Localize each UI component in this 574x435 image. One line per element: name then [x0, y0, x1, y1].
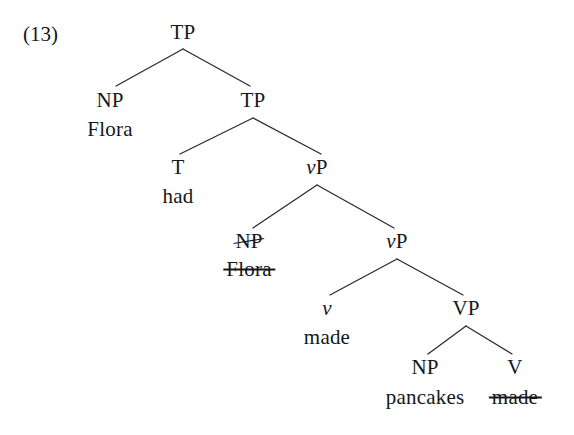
- branch-tp-lower-to-t: [180, 118, 253, 154]
- tree-node-label: vP: [386, 229, 407, 253]
- tree-node-tp-root: TP: [171, 22, 196, 43]
- tree-node-label: Flora: [226, 257, 271, 281]
- tree-node-pancakes: pancakes: [386, 387, 465, 408]
- tree-node-label: NP: [96, 88, 123, 112]
- tree-node-label: v: [322, 296, 332, 320]
- branch-vp-phrase-to-np: [428, 326, 466, 354]
- strikethrough-line: [489, 397, 542, 398]
- tree-branches: [0, 0, 574, 435]
- tree-node-t-head: T: [171, 157, 184, 178]
- tree-node-label: pancakes: [386, 385, 465, 409]
- tree-node-flora-trace: Flora: [226, 259, 271, 280]
- italic-head-letter: v: [322, 296, 332, 320]
- tree-node-vp-phrase: VP: [452, 298, 479, 319]
- tree-node-label: TP: [171, 20, 196, 44]
- tree-node-label: NP: [411, 355, 438, 379]
- syntax-tree-figure: (13) TPNPFloraTPThadvPNPFloravPvmadeVPNP…: [0, 0, 574, 435]
- tree-node-flora-top: Flora: [87, 119, 132, 140]
- tree-node-vp-lower: vP: [386, 231, 407, 252]
- tree-node-label: made: [492, 385, 538, 409]
- tree-node-np-trace: NP: [235, 231, 262, 252]
- tree-node-label: made: [304, 325, 350, 349]
- tree-node-label: vP: [306, 155, 327, 179]
- branch-vp-lower-to-vp-phrase: [397, 259, 463, 295]
- tree-node-tp-lower: TP: [241, 90, 266, 111]
- tree-node-v-head: v: [322, 298, 332, 319]
- tree-node-label: V: [507, 355, 522, 379]
- branch-vp-upper-to-vp-lower: [317, 185, 394, 228]
- strikethrough-line: [234, 238, 265, 244]
- tree-node-vp-upper: vP: [306, 157, 327, 178]
- strikethrough-line: [223, 269, 275, 270]
- branch-vp-lower-to-v: [330, 259, 397, 295]
- branch-tp-root-to-tp-lower: [183, 49, 250, 86]
- tree-node-made-trace: made: [492, 387, 538, 408]
- tree-node-np-object: NP: [411, 357, 438, 378]
- branch-tp-root-to-np-subject: [116, 49, 183, 86]
- tree-node-had: had: [163, 186, 194, 207]
- italic-head-letter: v: [386, 229, 396, 253]
- tree-node-v-trace: V: [507, 357, 522, 378]
- italic-head-letter: v: [306, 155, 316, 179]
- branch-vp-upper-to-np-trace: [253, 185, 317, 228]
- tree-node-made-v: made: [304, 327, 350, 348]
- branch-tp-lower-to-vp: [253, 118, 321, 154]
- branch-vp-phrase-to-v-trace: [466, 326, 512, 354]
- tree-node-label: VP: [452, 296, 479, 320]
- tree-node-label: had: [163, 184, 194, 208]
- tree-node-label: Flora: [87, 117, 132, 141]
- tree-node-label: TP: [241, 88, 266, 112]
- tree-node-label: T: [171, 155, 184, 179]
- tree-node-label: NP: [235, 229, 262, 253]
- tree-node-np-subject: NP: [96, 90, 123, 111]
